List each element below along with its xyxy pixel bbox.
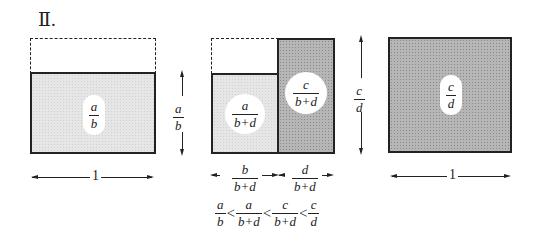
ineq-term-3: cb+d xyxy=(272,198,298,229)
arrow-left-icon xyxy=(31,175,38,179)
panel2-left-area-label: ab+d xyxy=(225,94,265,134)
panel3-height-arrow-top xyxy=(361,40,362,78)
arrow-right-icon xyxy=(147,175,154,179)
panel2-right-area-label: cb+d xyxy=(285,72,327,114)
arrow-left-icon xyxy=(390,174,397,178)
arrow-down-icon xyxy=(359,148,363,155)
arrow-up-icon xyxy=(180,70,184,77)
ineq-term-4: cd xyxy=(308,198,319,229)
panel1-width-label: 1 xyxy=(90,168,101,184)
panel3-height-arrow-bottom xyxy=(361,112,362,150)
panel3-width-label: 1 xyxy=(447,167,458,183)
ineq-term-1: ab xyxy=(215,198,226,229)
inequality-expression: ab < ab+d < cb+d < cd xyxy=(215,198,319,229)
panel2-left-width-label: bb+d xyxy=(232,160,258,194)
arrow-down-icon xyxy=(180,149,184,156)
arrow-left-icon xyxy=(278,173,285,177)
arrow-right-icon xyxy=(327,173,334,177)
panel2-right-width-label: db+d xyxy=(292,160,318,194)
panel1-area-label: ab xyxy=(83,95,105,135)
panel1-dashed-outline xyxy=(30,38,156,74)
arrow-up-icon xyxy=(359,35,363,42)
arrow-left-icon xyxy=(210,173,217,177)
ineq-term-2: ab+d xyxy=(236,198,262,229)
figure-title: Ⅱ. xyxy=(38,8,56,31)
panel1-height-arrow-top xyxy=(182,74,183,96)
arrow-right-icon xyxy=(504,174,511,178)
panel3-height-label: cd xyxy=(354,81,365,115)
panel1-height-label: ab xyxy=(173,99,184,133)
panel2-dashed-outline xyxy=(211,38,279,74)
panel3-area-label: cd xyxy=(440,75,462,115)
